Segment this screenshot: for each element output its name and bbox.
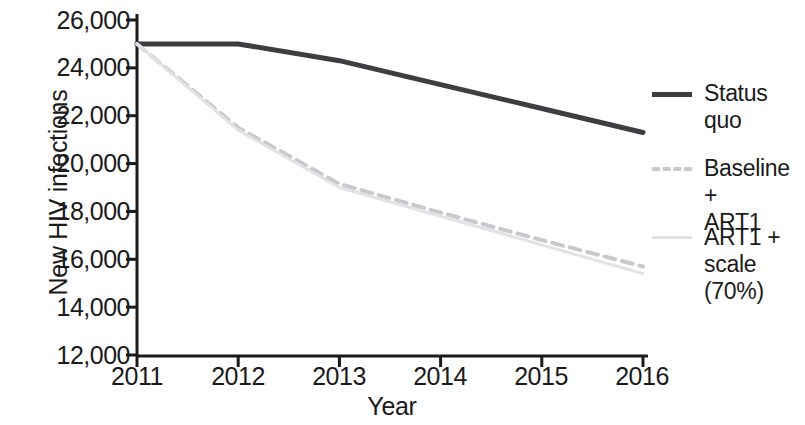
- legend-item-status-quo[interactable]: Status quo: [650, 80, 805, 134]
- x-axis-ticks: [137, 356, 643, 367]
- series-line: [137, 44, 643, 267]
- legend-label: ART1 + scale (70%): [694, 224, 805, 305]
- data-series-lines: [137, 44, 643, 274]
- solid-dark-line-icon: [650, 82, 694, 106]
- legend-label-line2: quo: [704, 107, 741, 133]
- legend-label-line2: scale (70%): [704, 251, 764, 304]
- solid-light-line-icon: [650, 226, 694, 250]
- chart-legend: Status quo Baseline + ART1 ART1 + scale …: [650, 0, 805, 425]
- legend-label-line1: Status: [704, 80, 767, 106]
- dashed-gray-line-icon: [650, 157, 694, 181]
- legend-label-line1: ART1 +: [704, 224, 780, 250]
- y-axis-ticks: [126, 20, 137, 355]
- legend-label: Status quo: [694, 80, 767, 134]
- series-line: [137, 44, 643, 274]
- legend-label-line1: Baseline +: [704, 155, 790, 208]
- axis-lines: [136, 14, 648, 356]
- line-chart-figure: New HIV infections 12,000 14,000 16,000 …: [0, 0, 805, 425]
- legend-item-art1-scale[interactable]: ART1 + scale (70%): [650, 224, 805, 305]
- series-line: [137, 44, 643, 133]
